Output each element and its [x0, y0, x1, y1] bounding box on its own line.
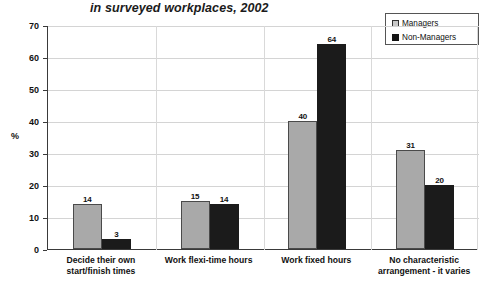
bar-non-managers: 64: [317, 44, 346, 249]
bar-value-label: 14: [83, 195, 92, 204]
y-tick-label: 50: [13, 85, 39, 95]
bar-managers: 15: [181, 201, 210, 249]
category-separator: [156, 26, 157, 250]
y-tick-label: 20: [13, 181, 39, 191]
plot-right-edge: [477, 26, 478, 250]
x-axis-category-label: No characteristicarrangement - it varies: [370, 255, 478, 276]
bar-managers: 31: [396, 150, 425, 249]
category-separator: [264, 26, 265, 250]
bar-chart: in surveyed workplaces, 2002 Managers No…: [0, 0, 486, 284]
bar-value-label: 64: [327, 35, 336, 44]
y-tick-label: 60: [13, 53, 39, 63]
x-axis-category-label: Work fixed hours: [263, 255, 371, 266]
y-tick-label: 0: [13, 245, 39, 255]
bar-value-label: 14: [220, 195, 229, 204]
bar-managers: 40: [288, 121, 317, 249]
x-axis-category-label: Decide their ownstart/finish times: [47, 255, 155, 276]
bar-non-managers: 14: [210, 204, 239, 249]
chart-title: in surveyed workplaces, 2002: [90, 1, 269, 15]
y-axis-title: %: [11, 131, 19, 141]
bar-non-managers: 3: [102, 239, 131, 249]
bar-value-label: 15: [191, 192, 200, 201]
bar-value-label: 20: [435, 176, 444, 185]
y-tick-mark: [43, 250, 47, 251]
bar-non-managers: 20: [425, 185, 454, 249]
y-tick-label: 10: [13, 213, 39, 223]
y-tick-label: 40: [13, 117, 39, 127]
category-separator: [371, 26, 372, 250]
y-tick-label: 70: [13, 21, 39, 31]
bar-value-label: 3: [114, 230, 118, 239]
x-axis-category-label: Work flexi-time hours: [155, 255, 263, 266]
y-tick-label: 30: [13, 149, 39, 159]
bar-value-label: 31: [406, 141, 415, 150]
plot-area: 143151440643120: [47, 26, 478, 250]
bar-value-label: 40: [298, 112, 307, 121]
bar-managers: 14: [73, 204, 102, 249]
